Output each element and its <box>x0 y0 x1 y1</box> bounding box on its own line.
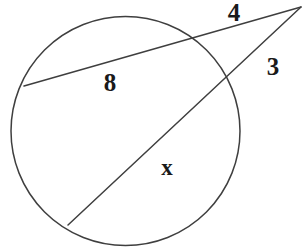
label-external-segment-4: 4 <box>228 0 241 26</box>
geometry-diagram: 4 3 8 x <box>0 0 304 249</box>
geometry-canvas: 4 3 8 x <box>0 0 304 249</box>
label-external-segment-3: 3 <box>267 53 280 80</box>
label-chord-8: 8 <box>104 69 117 96</box>
circle-shape <box>11 17 240 246</box>
label-chord-x: x <box>161 155 173 180</box>
